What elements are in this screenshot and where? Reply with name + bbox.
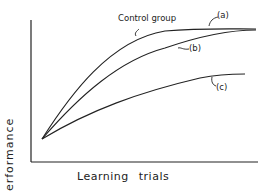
chart-plot — [0, 0, 270, 191]
curve-c-label: (c) — [216, 82, 227, 92]
x-axis-label: Learning trials — [77, 170, 169, 183]
learning-curve-chart: Control group (a) (b) (c) Performance Le… — [0, 0, 270, 191]
b-pointer — [178, 48, 189, 49]
curve-b-label: (b) — [189, 43, 201, 53]
control-group-label: Control group — [118, 13, 176, 23]
curve-a-label: (a) — [217, 10, 229, 20]
y-axis-label: Performance — [3, 108, 17, 191]
control-pointer — [135, 29, 139, 36]
